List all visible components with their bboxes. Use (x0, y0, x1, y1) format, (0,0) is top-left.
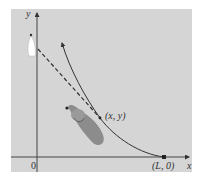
x-axis-label: x (187, 161, 191, 171)
origin-label: 0 (31, 161, 36, 171)
point-L0 (162, 155, 166, 159)
point-xy (99, 117, 102, 120)
end-point-label: (L, 0) (152, 161, 174, 171)
plot-background (11, 9, 192, 172)
y-axis-label: y (26, 9, 30, 19)
tractrix-diagram (0, 0, 206, 184)
point-label: (x, y) (105, 111, 126, 121)
